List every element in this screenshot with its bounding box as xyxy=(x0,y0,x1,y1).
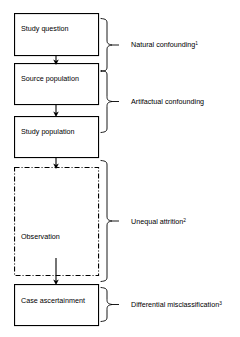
brace-natural-confounding xyxy=(101,19,112,72)
node-box-study-population xyxy=(15,117,99,158)
annotation-label-natural-confounding: Natural confounding1 xyxy=(131,40,198,49)
annotation-superscript-unequal-attrition: 2 xyxy=(183,218,186,223)
flowchart-diagram: Study questionSource populationStudy pop… xyxy=(0,0,240,337)
node-label-study-question: Study question xyxy=(21,24,69,33)
brace-differential-misclassification xyxy=(101,288,112,322)
node-box-source-population xyxy=(15,64,99,105)
annotation-text-differential-misclassification: Differential misclassification xyxy=(131,300,219,309)
node-label-study-population: Study population xyxy=(21,127,75,136)
diagram-canvas: Study questionSource populationStudy pop… xyxy=(0,0,240,337)
annotation-label-unequal-attrition: Unequal attrition2 xyxy=(131,217,186,226)
node-label-observation: Observation xyxy=(21,232,60,241)
braces-layer xyxy=(101,19,119,322)
annotation-text-unequal-attrition: Unequal attrition xyxy=(131,217,183,226)
annotation-text-natural-confounding: Natural confounding xyxy=(131,40,195,49)
annotation-superscript-differential-misclassification: 3 xyxy=(219,301,222,306)
annotation-text-artifactual-confounding: Artifactual confounding xyxy=(131,97,204,106)
node-label-case-ascertainment: Case ascertainment xyxy=(21,296,85,305)
annotation-label-differential-misclassification: Differential misclassification3 xyxy=(131,300,222,309)
annotation-labels-layer: Natural confounding1Artifactual confound… xyxy=(131,40,222,309)
brace-unequal-attrition xyxy=(101,161,112,282)
brace-artifactual-confounding xyxy=(101,71,112,133)
node-box-case-ascertainment xyxy=(15,285,99,326)
annotation-superscript-natural-confounding: 1 xyxy=(195,41,198,46)
node-box-study-question xyxy=(15,14,99,56)
annotation-label-artifactual-confounding: Artifactual confounding xyxy=(131,97,204,106)
node-label-source-population: Source population xyxy=(21,74,79,83)
